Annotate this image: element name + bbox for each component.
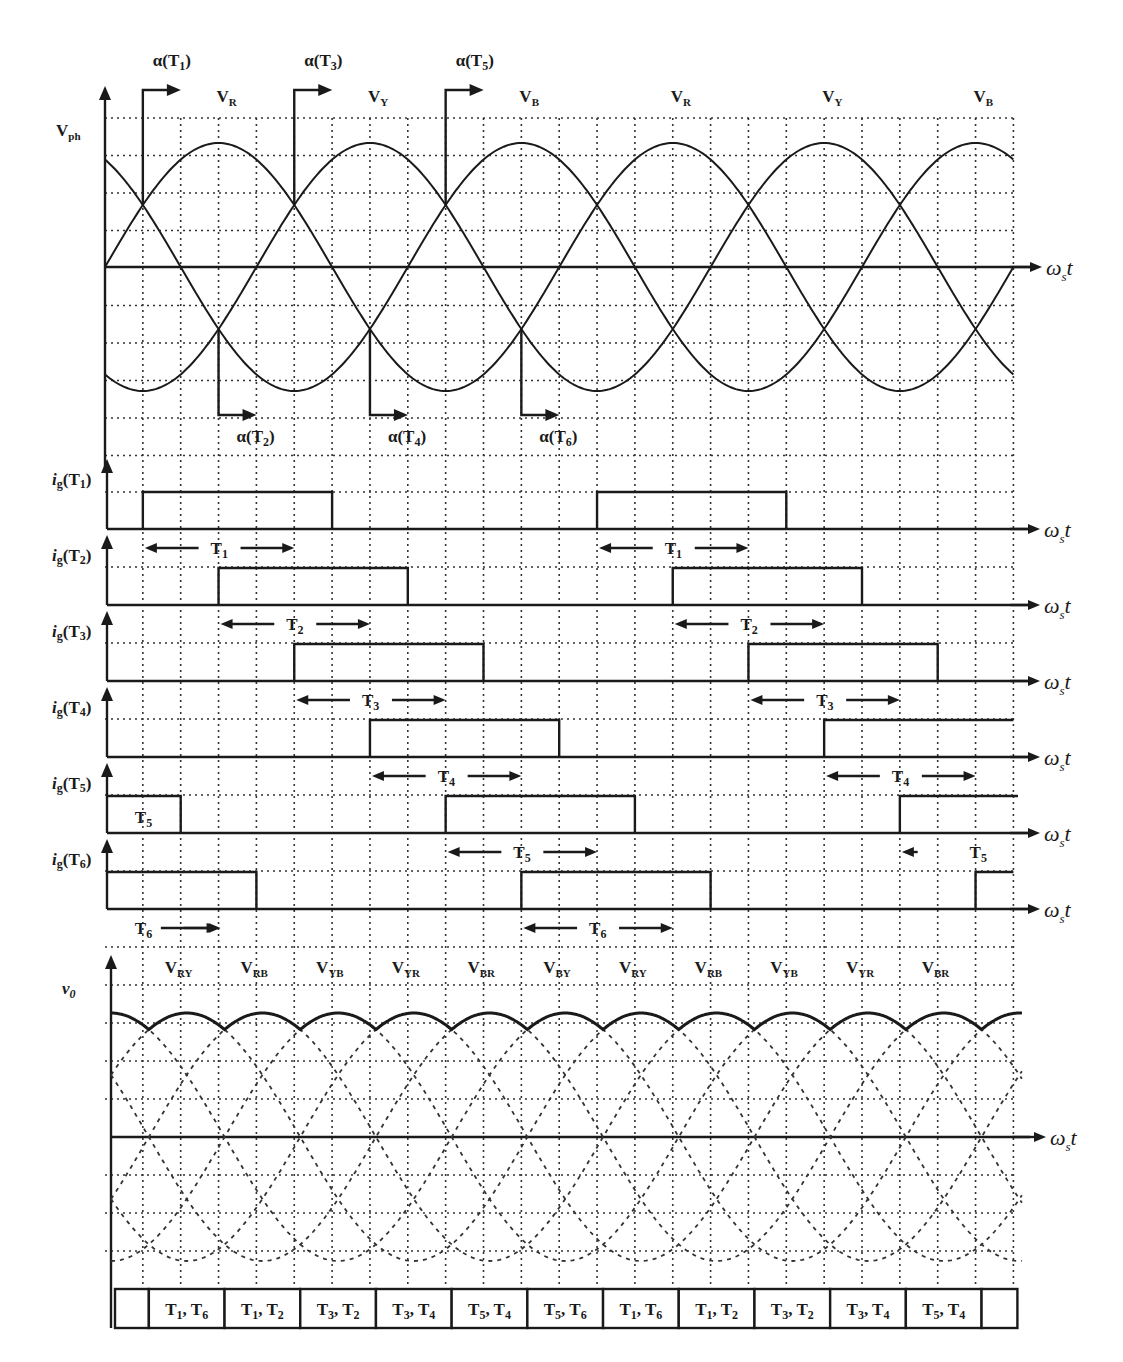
conduction-arrow-left-arrowhead-icon [675,619,687,629]
line-voltage-label-vry: VRY [165,958,193,979]
conduction-arrow-right-arrowhead-icon [282,543,294,553]
conduction-arrow-left-arrowhead-icon [145,543,157,553]
gate-time-axis-arrowhead-icon [1028,904,1040,914]
gate-pulse-t1 [143,492,332,529]
v0-axis-arrowhead-icon [105,955,117,969]
gate-label-t3: ig(T3) [52,622,91,643]
line-voltage-label-vry: VRY [619,958,647,979]
gate-pulse-t3 [294,644,483,681]
alpha-marker-t4 [370,329,396,415]
table-cell-label: T3, T4 [847,1300,890,1322]
alpha-arrowhead-icon [318,84,332,96]
conduction-arrow-left-arrowhead-icon [599,543,611,553]
omega-t-label: ωst [1050,1125,1078,1154]
line-voltage-label-vbr: VBR [468,958,497,979]
output-voltage-envelope [111,1013,1022,1030]
alpha-label-t5: α(T5) [456,51,494,73]
table-cell [982,1289,1018,1328]
conduction-label-t3: T3 [816,691,833,713]
omega-t-label: ωst [1044,745,1072,774]
conduction-arrow-left-arrowhead-icon [750,695,762,705]
alpha-arrowhead-icon [470,84,484,96]
phase-voltage-plot: ωstVphVRVYVBVRVYVBα(T1)α(T3)α(T5)α(T2)α(… [56,51,1074,470]
line-voltage-label-vby: VBY [543,958,571,979]
gate-pulse-t6 [107,872,256,909]
gate-pulse-t2 [219,568,408,605]
gate-pulse-t4 [824,720,1013,757]
gate-axis-3-arrowhead-icon [101,611,113,625]
output-time-axis-arrowhead-icon [1034,1132,1046,1142]
omega-t-label: ωst [1044,669,1072,698]
conduction-arrow-left-arrowhead-icon [523,923,535,933]
gate-pulse-t3 [748,644,937,681]
conduction-arrow-left-arrowhead-icon [221,619,233,629]
gate-axis-4-arrowhead-icon [101,687,113,701]
table-cell-label: T3, T4 [392,1300,435,1322]
alpha-marker-t6 [521,329,547,415]
omega-t-label: ωst [1044,897,1072,926]
gate-axis-2-arrowhead-icon [101,535,113,549]
conduction-arrow-right-arrowhead-icon [736,543,748,553]
conduction-arrow-left-arrowhead-icon [372,771,384,781]
table-cell-label: T5, T4 [922,1300,965,1322]
phase-label-vy: VY [368,87,388,108]
alpha-label-t1: α(T1) [153,51,191,73]
phase-label-vr: VR [217,87,238,108]
conduction-label-t5: T5 [135,808,152,830]
vph-label: Vph [56,121,81,142]
gate-axis-6-arrowhead-icon [101,839,113,853]
omega-t-label: ωst [1044,517,1072,546]
line-voltage-label-vbr: VBR [922,958,951,979]
phase-label-vb: VB [974,87,994,108]
table-cell-label: T3, T2 [317,1300,360,1322]
conduction-arrow-left-arrowhead-icon [296,695,308,705]
table-cell [115,1289,149,1328]
table-cell-label: T3, T2 [771,1300,814,1322]
gate-pulse-plots: ωstig(T1)T1T1ωstig(T2)T2T2ωstig(T3)T3T3ω… [52,459,1072,941]
line-voltage-label-vyr: VYR [392,958,421,979]
table-cell-label: T5, T6 [544,1300,587,1322]
gate-label-t4: ig(T4) [52,698,91,719]
table-cell-label: T5, T4 [468,1300,511,1322]
conduction-label-t4: T4 [892,767,909,789]
conduction-arrow-right-arrowhead-icon [888,695,900,705]
table-cell-label: T1, T6 [165,1300,208,1322]
line-voltage-label-vrb: VRB [695,958,723,979]
gate-time-axis-arrowhead-icon [1028,600,1040,610]
gate-axis-1-arrowhead-icon [101,459,113,473]
conduction-arrow-right-arrowhead-icon [358,619,370,629]
table-cell-label: T1, T6 [619,1300,662,1322]
vph-axis-arrowhead-icon [99,86,111,100]
gate-pulse-t1 [597,492,786,529]
gate-pulse-t6 [521,872,710,909]
gate-label-t2: ig(T2) [52,546,91,567]
omega-t-label: ωst [1046,255,1074,284]
alpha-arrowhead-icon [545,409,559,421]
alpha-label-t4: α(T4) [388,427,426,449]
gate-pulse-t4 [370,720,559,757]
conduction-arrow-left-arrowhead-icon [448,847,460,857]
conduction-arrow-right-arrowhead-icon [585,847,597,857]
alpha-arrowhead-icon [243,409,257,421]
gate-axis-5-arrowhead-icon [101,763,113,777]
conduction-label-t5: T5 [970,843,987,865]
phase-label-vy: VY [822,87,842,108]
conduction-arrow-right-arrowhead-icon [964,771,976,781]
alpha-marker-t2 [219,329,245,415]
gate-pulse-t6 [976,872,1014,909]
gate-pulse-t2 [673,568,862,605]
conduction-arrow-left-arrowhead-icon [826,771,838,781]
omega-t-label: ωst [1044,593,1072,622]
converter-waveform-figure: ωstVphVRVYVBVRVYVBα(T1)α(T3)α(T5)α(T2)α(… [0,0,1123,1362]
conduction-table: T1, T6T1, T2T3, T2T3, T4T5, T4T5, T6T1, … [111,1289,1017,1328]
conduction-label-t1: T1 [211,539,228,561]
alpha-arrowhead-icon [167,84,181,96]
gate-time-axis-arrowhead-icon [1028,676,1040,686]
conduction-label-t4: T4 [438,767,455,789]
conduction-arrow-right-arrowhead-icon [812,619,824,629]
conduction-label-t2: T2 [286,615,303,637]
conduction-arrow-right-arrowhead-icon [209,923,221,933]
omega-t-label: ωst [1044,821,1072,850]
line-voltage-label-vrb: VRB [240,958,268,979]
gate-pulse-t5 [446,796,635,833]
